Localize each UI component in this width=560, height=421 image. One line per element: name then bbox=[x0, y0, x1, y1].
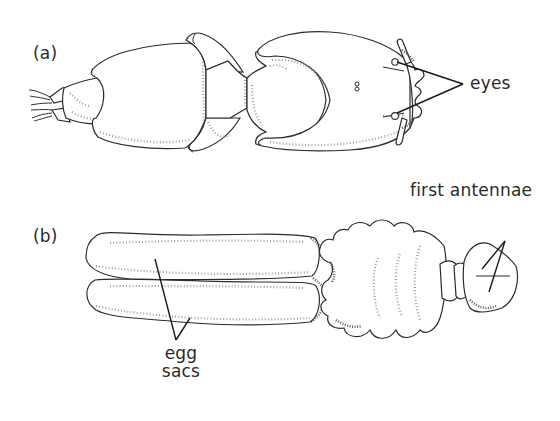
panel-label-a: (a) bbox=[33, 45, 57, 62]
egg-sacs-label-line-2: sacs bbox=[160, 363, 202, 381]
first-antennae-label: first antennae bbox=[410, 182, 532, 199]
eye-lower-icon bbox=[392, 113, 399, 120]
specimen-b bbox=[86, 220, 517, 340]
head-cone bbox=[463, 243, 517, 312]
egg-sacs-label: egg sacs bbox=[160, 345, 202, 381]
copepod-diagram: (a) eyes first antennae (b) egg sacs bbox=[0, 0, 560, 421]
body-trunk bbox=[319, 220, 446, 338]
prosome-segment-large bbox=[91, 43, 206, 149]
eyes-label: eyes bbox=[470, 75, 511, 92]
specimen-a bbox=[29, 32, 463, 152]
panel-label-b: (b) bbox=[33, 228, 58, 245]
caudal-setae bbox=[29, 90, 52, 121]
diagram-drawing bbox=[0, 0, 560, 421]
egg-sac-upper bbox=[86, 233, 319, 280]
